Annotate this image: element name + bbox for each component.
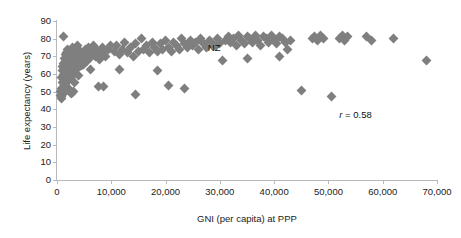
correlation-value: = 0.58 [345,109,372,120]
x-tick-mark [437,180,438,184]
y-tick-mark [53,74,57,75]
x-tick-mark [383,180,384,184]
correlation-symbol: r [339,109,342,120]
plot-area: 0102030405060708090 010,00020,00030,0004… [57,21,437,180]
x-tick-label: 30,000 [205,187,234,197]
y-tick-label: 50 [40,87,51,97]
data-point [421,56,431,66]
data-point [296,86,306,96]
x-tick-mark [328,180,329,184]
y-tick-label: 10 [40,158,51,168]
x-tick-label: 60,000 [368,187,397,197]
y-tick-label: 20 [40,140,51,150]
x-tick-mark [111,180,112,184]
y-tick-label: 90 [40,16,51,26]
x-tick-label: 70,000 [422,187,451,197]
y-axis-title: Life expectancy (years) [21,51,32,149]
y-tick-mark [53,39,57,40]
y-tick-mark [53,162,57,163]
y-tick-label: 70 [40,52,51,62]
x-tick-mark [220,180,221,184]
data-point [180,83,190,93]
x-tick-mark [57,180,58,184]
x-tick-label: 20,000 [151,187,180,197]
annotation-nz: NZ [208,42,221,53]
data-point [152,66,162,76]
x-tick-label: 50,000 [314,187,343,197]
x-tick-label: 0 [54,187,59,197]
scatter-chart: 0102030405060708090 010,00020,00030,0004… [0,0,461,238]
data-point [367,35,377,45]
data-point [99,81,109,91]
data-point [59,31,69,41]
y-tick-label: 60 [40,69,51,79]
y-tick-mark [53,21,57,22]
data-point [218,56,228,66]
y-tick-mark [53,109,57,110]
y-tick-label: 40 [40,105,51,115]
y-tick-mark [53,127,57,128]
data-point [275,51,285,61]
data-point [326,91,336,101]
x-tick-mark [274,180,275,184]
y-tick-label: 30 [40,122,51,132]
data-point [242,54,252,64]
y-tick-mark [53,145,57,146]
x-tick-mark [166,180,167,184]
data-point [389,34,399,44]
data-point [114,65,124,75]
y-tick-label: 80 [40,34,51,44]
x-axis-line [56,180,438,181]
annotation-correlation: r = 0.58 [339,109,372,120]
y-tick-label: 0 [46,175,51,185]
x-axis-title: GNI (per capita) at PPP [57,213,437,224]
data-point [131,89,141,99]
data-point [163,81,173,91]
x-tick-label: 10,000 [97,187,126,197]
y-tick-mark [53,56,57,57]
x-tick-label: 40,000 [260,187,289,197]
data-point [86,65,96,75]
